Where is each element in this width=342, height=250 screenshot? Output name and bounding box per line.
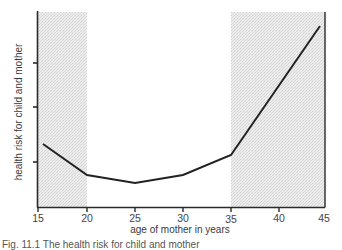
shaded-region-late — [231, 12, 325, 207]
x-tick-label: 20 — [81, 212, 93, 224]
x-axis-title: age of mother in years — [130, 224, 230, 235]
x-tick-label: 45 — [318, 212, 330, 224]
y-axis-title: health risk for child and mother — [13, 43, 24, 180]
x-tick-label: 25 — [129, 212, 141, 224]
x-tick-label: 30 — [177, 212, 189, 224]
figure-caption: Fig. 11.1 The health risk for child and … — [2, 239, 200, 250]
x-tick-label: 15 — [32, 212, 44, 224]
shaded-region-teen — [38, 12, 87, 207]
x-tick-label: 40 — [273, 212, 285, 224]
